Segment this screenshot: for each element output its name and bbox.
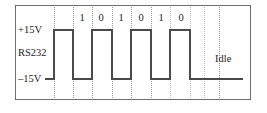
- rs232-waveform-figure: +15V RS232 –15V 101010 Idle: [0, 0, 267, 113]
- waveform-svg: [0, 0, 267, 113]
- rs232-signal-trace: [45, 30, 243, 79]
